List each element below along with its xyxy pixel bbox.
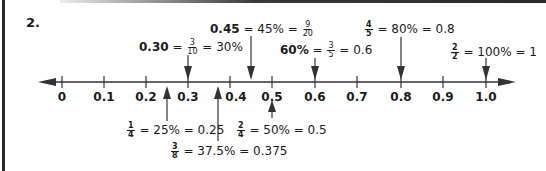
arrow-0375-icon bbox=[214, 86, 222, 99]
annotation-2-4: 24 = 50% = 0.5 bbox=[236, 122, 327, 139]
fraction-2-4: 24 bbox=[237, 122, 245, 139]
tick-label: 0.1 bbox=[93, 90, 114, 104]
tick-label: 0 bbox=[58, 90, 66, 104]
tick-label: 0.6 bbox=[304, 90, 325, 104]
arrow-025-icon bbox=[163, 86, 171, 99]
annotation-4-5: 45 = 80% = 0.8 bbox=[364, 21, 455, 38]
fraction-3-10: 310 bbox=[187, 39, 197, 56]
arrow-100-icon bbox=[482, 66, 490, 80]
tick-label: 0.3 bbox=[177, 90, 198, 104]
annotation-0-30: 0.30 = 310 = 30% bbox=[139, 39, 243, 56]
tick-label: 0.5 bbox=[261, 90, 282, 104]
tick-label: 0.4 bbox=[225, 90, 246, 104]
tick-label: 1.0 bbox=[475, 90, 496, 104]
fraction-3-5: 35 bbox=[327, 42, 334, 59]
tick-label: 0.9 bbox=[432, 90, 453, 104]
tick-label: 0.2 bbox=[135, 90, 156, 104]
fraction-2-2: 22 bbox=[451, 44, 459, 61]
arrow-045-icon bbox=[247, 66, 255, 80]
left-arrow-icon bbox=[38, 78, 56, 86]
arrow-080-icon bbox=[397, 66, 405, 80]
annotation-0-45: 0.45 = 45% = 920 bbox=[210, 21, 314, 38]
tick-label: 0.7 bbox=[346, 90, 367, 104]
right-arrow-icon bbox=[498, 78, 516, 86]
annotation-3-8: 38 = 37.5% = 0.375 bbox=[170, 143, 287, 160]
fraction-3-8: 38 bbox=[171, 143, 179, 160]
fraction-1-4: 14 bbox=[127, 122, 135, 139]
annotation-2-2: 22 = 100% = 1 bbox=[450, 44, 537, 61]
tick-label: 0.8 bbox=[390, 90, 411, 104]
fraction-4-5: 45 bbox=[365, 21, 373, 38]
annotation-60-percent: 60% = 35 = 0.6 bbox=[280, 42, 372, 59]
arrow-060-icon bbox=[311, 66, 319, 80]
annotation-1-4: 14 = 25% = 0.25 bbox=[126, 122, 224, 139]
arrow-030-icon bbox=[184, 66, 192, 80]
fraction-9-20: 920 bbox=[303, 21, 313, 38]
